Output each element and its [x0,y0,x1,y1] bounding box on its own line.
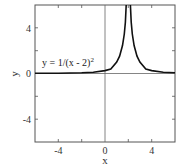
equation-annotation: y = 1/(x - 2)2 [42,56,94,69]
y-tick-label: 4 [26,23,31,34]
chart: -4 0 4 4 0 -4 x y y = 1/(x - 2)2 [0,0,187,167]
y-tick-label: -4 [23,114,31,125]
x-tick-label: 4 [149,145,154,156]
x-tick-label: -4 [54,145,62,156]
curve-right-branch [130,5,175,73]
x-axis-label: x [102,154,108,166]
y-axis-label: y [8,71,20,77]
y-tick-label: 0 [26,68,31,79]
